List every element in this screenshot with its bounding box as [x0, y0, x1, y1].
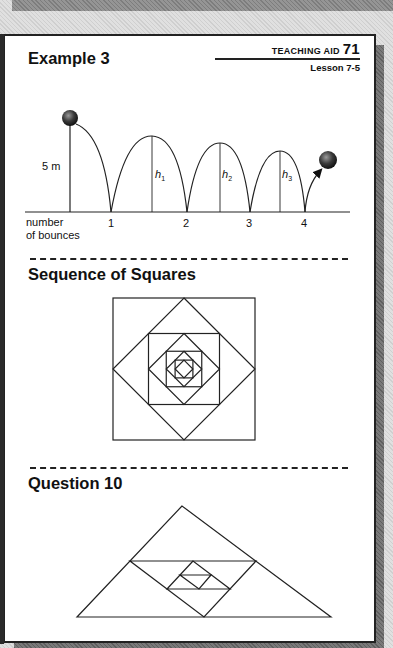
diamond-1	[113, 298, 255, 440]
drop-arc	[76, 124, 111, 212]
ball-icon	[319, 151, 337, 169]
height-label: 5 m	[42, 160, 60, 172]
diamond-4	[175, 360, 193, 378]
h3-label: h3	[282, 168, 292, 182]
bounce-number: 4	[301, 217, 307, 229]
axis-label-of-bounces: of bounces	[26, 229, 80, 241]
square-4	[175, 360, 193, 378]
bounce-number: 2	[183, 217, 189, 229]
bounce-arc-1	[111, 136, 187, 212]
h2-label: h2	[222, 168, 232, 182]
triangle-4	[180, 575, 211, 589]
bounce-arc-3	[250, 151, 305, 212]
nested-triangles-diagram	[77, 506, 331, 617]
nested-squares-diagram	[113, 298, 255, 440]
bounce-arc-2	[187, 143, 250, 212]
bounce-number: 3	[246, 217, 252, 229]
axis-label-number: number	[26, 216, 64, 228]
diagrams-layer: 5 m h1 h2 h3 number of bounces 1 2 3 4	[0, 0, 393, 648]
rebound-arrow	[305, 171, 320, 212]
ball-icon	[62, 110, 78, 126]
bounce-number: 1	[108, 217, 114, 229]
diamond-2	[149, 334, 220, 405]
bouncing-ball-diagram	[25, 124, 350, 212]
square-2	[149, 334, 220, 405]
square-1	[113, 298, 255, 440]
square-3	[166, 351, 202, 387]
diamond-3	[166, 351, 202, 387]
h1-label: h1	[155, 168, 165, 182]
